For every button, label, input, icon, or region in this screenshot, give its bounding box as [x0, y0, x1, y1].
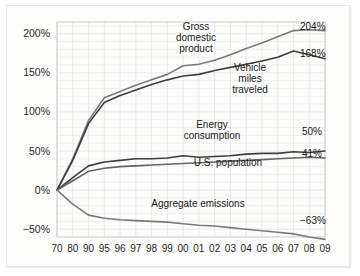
x-axis-tick-label: 06: [272, 243, 284, 254]
y-axis-tick-label: 0%: [35, 184, 50, 196]
chart-screenshot: 200%150%100%50%0%−50% 708090959697989900…: [0, 0, 360, 276]
annotation-line: miles: [238, 73, 261, 84]
x-axis-tick-label: 03: [225, 243, 237, 254]
chart-plot-wrapper: 200%150%100%50%0%−50% 708090959697989900…: [0, 0, 360, 276]
series-line: [57, 151, 325, 190]
end-value-label-energy: 50%: [302, 126, 322, 137]
x-axis-tick-label: 96: [114, 243, 126, 254]
x-axis-tick-label: 80: [67, 243, 79, 254]
series-annotation-emissions: Aggregate emissions: [151, 198, 244, 209]
x-axis-tick-label: 08: [304, 243, 316, 254]
annotation-line: Vehicle: [234, 62, 267, 73]
x-axis-tick-label: 70: [51, 243, 63, 254]
x-axis-tick-labels: 708090959697989900010203040506070809: [51, 243, 331, 254]
annotation-line: Gross: [183, 21, 210, 32]
y-axis-tick-labels: 200%150%100%50%0%−50%: [23, 27, 50, 234]
y-axis-tick-label: 150%: [23, 66, 50, 78]
x-axis-tick-label: 02: [209, 243, 221, 254]
line-chart: 200%150%100%50%0%−50% 708090959697989900…: [0, 0, 360, 276]
annotation-line: Energy: [196, 119, 228, 130]
y-axis-tick-label: 100%: [23, 105, 50, 117]
end-value-label-emissions: −63%: [300, 215, 326, 226]
series-annotation-vmt: Vehiclemilestraveled: [232, 62, 268, 95]
end-value-label-vmt: 168%: [300, 48, 326, 59]
x-axis-tick-label: 90: [83, 243, 95, 254]
x-axis-tick-label: 97: [130, 243, 142, 254]
x-axis-tick-label: 00: [178, 243, 190, 254]
x-axis-tick-label: 05: [256, 243, 268, 254]
series-line: [57, 157, 325, 190]
annotation-line: U.S. population: [194, 157, 262, 168]
series-annotation-population: U.S. population: [194, 157, 262, 168]
annotation-line: traveled: [232, 84, 268, 95]
x-axis-tick-label: 95: [99, 243, 111, 254]
x-axis-tick-label: 07: [288, 243, 300, 254]
end-value-label-gdp: 204%: [300, 21, 326, 32]
annotation-line: domestic: [176, 32, 216, 43]
x-axis-tick-label: 01: [193, 243, 205, 254]
x-axis-tick-label: 09: [319, 243, 331, 254]
x-axis-tick-label: 98: [146, 243, 158, 254]
annotation-line: product: [179, 43, 213, 54]
y-axis-tick-label: 200%: [23, 27, 50, 39]
y-axis-tick-label: −50%: [23, 223, 50, 235]
series-end-value-labels: 204%168%50%41%−63%: [300, 21, 326, 226]
annotation-line: Aggregate emissions: [151, 198, 244, 209]
series-annotation-energy: Energyconsumption: [184, 119, 241, 141]
annotation-line: consumption: [184, 130, 241, 141]
x-axis-tick-label: 04: [241, 243, 253, 254]
end-value-label-population: 41%: [302, 148, 322, 159]
x-axis-tick-label: 99: [162, 243, 174, 254]
y-axis-tick-label: 50%: [29, 145, 50, 157]
